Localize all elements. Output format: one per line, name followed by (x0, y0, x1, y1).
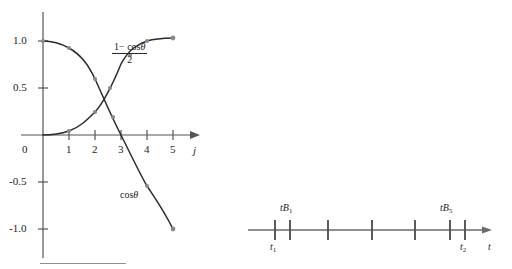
data-point-cos-1 (67, 46, 71, 50)
timeline-label-t2: t2 (460, 242, 466, 254)
bottom-divider-rule (40, 263, 126, 264)
curve-label-cos-theta: cosθ (120, 190, 138, 200)
curve-half-one-minus-cos (43, 38, 173, 135)
tB1-base: tB (280, 202, 289, 213)
timeline-label-tB5: tB5 (440, 203, 452, 215)
x-tick-label-3: 3 (118, 144, 124, 155)
figure-canvas: 1.0 0.5 -0.5 -1.0 0 1 2 3 4 5 j 1− cosθ … (0, 0, 512, 269)
x-tick-label-5: 5 (170, 144, 176, 155)
tB5-base: tB (440, 202, 449, 213)
x-tick-label-2: 2 (92, 144, 98, 155)
t1-subscript: 1 (273, 246, 276, 253)
trig-curves-chart: 1.0 0.5 -0.5 -1.0 0 1 2 3 4 5 j 1− cosθ … (0, 0, 256, 269)
data-point-half-3 (108, 86, 112, 90)
timeline-arrowhead (482, 227, 492, 234)
x-axis-arrowhead (190, 131, 200, 139)
y-tick-label-3: -0.5 (9, 176, 26, 187)
fraction-denominator: 2 (112, 54, 147, 65)
y-tick-label-2: 0.5 (13, 82, 27, 93)
data-point-cos-3 (111, 115, 115, 119)
curve-label-half-one-minus-cos: 1− cosθ 2 (112, 42, 147, 65)
x-axis-name: j (193, 145, 196, 156)
numerator-theta: θ (140, 41, 145, 52)
tB1-subscript: 1 (289, 207, 292, 214)
cos-theta-symbol: θ (133, 189, 138, 200)
t2-subscript: 2 (463, 246, 466, 253)
data-point-cos-2 (93, 77, 97, 81)
y-tick-label-4: -1.0 (9, 223, 26, 234)
x-tick-label-4: 4 (144, 144, 150, 155)
data-point-cos-5 (171, 227, 176, 232)
timeline-label-t1: t1 (270, 242, 276, 254)
numerator-cos: cos (127, 41, 140, 52)
x-tick-label-0: 0 (22, 144, 28, 155)
time-axis: tB1 tB5 t1 t2 t (240, 150, 512, 269)
data-point-half-6 (171, 36, 176, 41)
timeline-axis-name: t (488, 242, 491, 252)
x-tick-label-1: 1 (66, 144, 72, 155)
data-point-half-1 (67, 129, 71, 133)
data-point-cos-4 (145, 184, 149, 188)
data-point-half-2 (93, 110, 97, 114)
tB5-subscript: 5 (449, 207, 452, 214)
numerator-minus-sign: − (119, 41, 125, 52)
timeline-label-tB1: tB1 (280, 203, 292, 215)
data-point-cos-0 (41, 39, 45, 43)
y-tick-label-1: 1.0 (13, 35, 27, 46)
fraction-numerator: 1− cosθ (112, 42, 147, 54)
cos-word: cos (120, 189, 133, 200)
